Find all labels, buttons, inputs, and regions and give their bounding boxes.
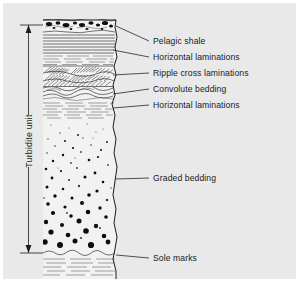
turbidite-unit-bracket: Turbidite unit: [20, 25, 43, 253]
turbidite-figure: Turbidite unit Pelagic shale Horizontal …: [0, 0, 300, 283]
label-horizontal-laminations-lower: Horizontal laminations: [153, 100, 240, 110]
annotation-layer: Pelagic shale Horizontal laminations Rip…: [113, 26, 249, 263]
label-sole-marks: Sole marks: [153, 253, 197, 263]
leader-horizontal-laminations-lower: [113, 105, 149, 108]
leader-horizontal-laminations-upper: [113, 50, 149, 57]
label-graded-bedding: Graded bedding: [153, 173, 216, 183]
label-ripple-cross-laminations: Ripple cross laminations: [153, 68, 249, 78]
leader-sole-marks: [116, 255, 149, 258]
label-horizontal-laminations-upper: Horizontal laminations: [153, 52, 240, 62]
bracket-label: Turbidite unit: [24, 114, 34, 168]
label-convolute-bedding: Convolute bedding: [153, 84, 226, 94]
leader-graded-bedding: [116, 178, 149, 179]
label-pelagic-shale: Pelagic shale: [153, 36, 206, 46]
turbidite-diagram: Turbidite unit Pelagic shale Horizontal …: [3, 3, 296, 279]
leader-pelagic-shale: [116, 26, 149, 41]
leader-ripple-cross-laminations: [113, 73, 149, 75]
leader-convolute-bedding: [113, 89, 149, 94]
arrow-down-icon: [26, 245, 32, 253]
arrow-up-icon: [26, 25, 32, 33]
